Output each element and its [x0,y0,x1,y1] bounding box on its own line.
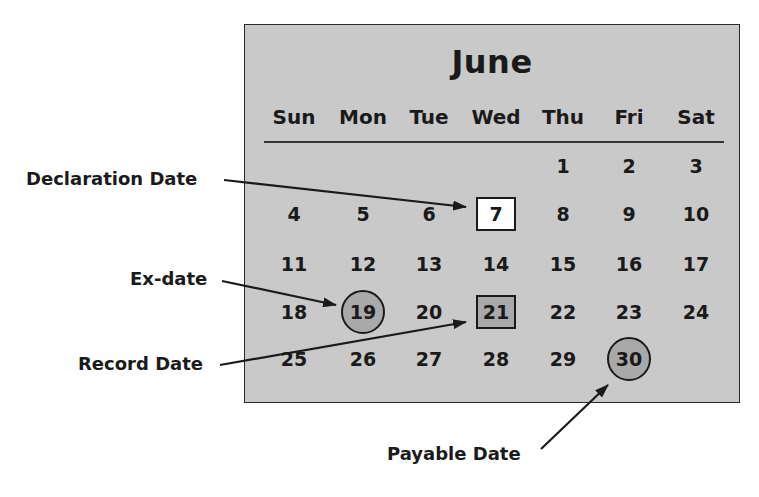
weekday-sat: Sat [663,105,729,129]
record-date-label: Record Date [78,353,203,374]
declaration-date-label: Declaration Date [26,168,197,189]
day-cell: 6 [404,199,454,229]
day-cell: 2 [604,151,654,181]
payable-date-day: 30 [604,344,654,374]
declaration-day: 7 [471,199,521,229]
day-cell: 17 [671,249,721,279]
day-cell: 4 [269,199,319,229]
day-cell: 11 [269,249,319,279]
day-cell [338,151,388,181]
day-cell: 26 [338,344,388,374]
month-title: June [245,43,739,81]
day-cell: 24 [671,297,721,327]
day-cell: 14 [471,249,521,279]
weekday-tue: Tue [396,105,462,129]
weekday-header-row: Sun Mon Tue Wed Thu Fri Sat [265,105,731,133]
weekday-sun: Sun [261,105,327,129]
weekday-wed: Wed [463,105,529,129]
day-cell: 22 [538,297,588,327]
day-cell: 15 [538,249,588,279]
header-divider [264,141,724,143]
day-cell: 25 [269,344,319,374]
calendar-panel: June Sun Mon Tue Wed Thu Fri Sat 1 2 3 4… [244,24,740,403]
ex-date-label: Ex-date [130,268,207,289]
day-cell [404,151,454,181]
day-cell: 28 [471,344,521,374]
day-cell: 9 [604,199,654,229]
day-cell: 20 [404,297,454,327]
day-cell: 27 [404,344,454,374]
day-cell: 16 [604,249,654,279]
day-cell: 3 [671,151,721,181]
weekday-thu: Thu [530,105,596,129]
weekday-mon: Mon [330,105,396,129]
day-cell: 13 [404,249,454,279]
day-cell: 1 [538,151,588,181]
day-cell: 12 [338,249,388,279]
day-cell [269,151,319,181]
day-cell [471,151,521,181]
day-cell: 5 [338,199,388,229]
day-cell: 8 [538,199,588,229]
day-cell: 23 [604,297,654,327]
record-date-day: 21 [471,297,521,327]
day-cell: 29 [538,344,588,374]
day-cell: 10 [671,199,721,229]
weekday-fri: Fri [596,105,662,129]
payable-date-label: Payable Date [387,443,521,464]
ex-date-day: 19 [338,297,388,327]
day-cell: 18 [269,297,319,327]
day-cell [671,344,721,374]
